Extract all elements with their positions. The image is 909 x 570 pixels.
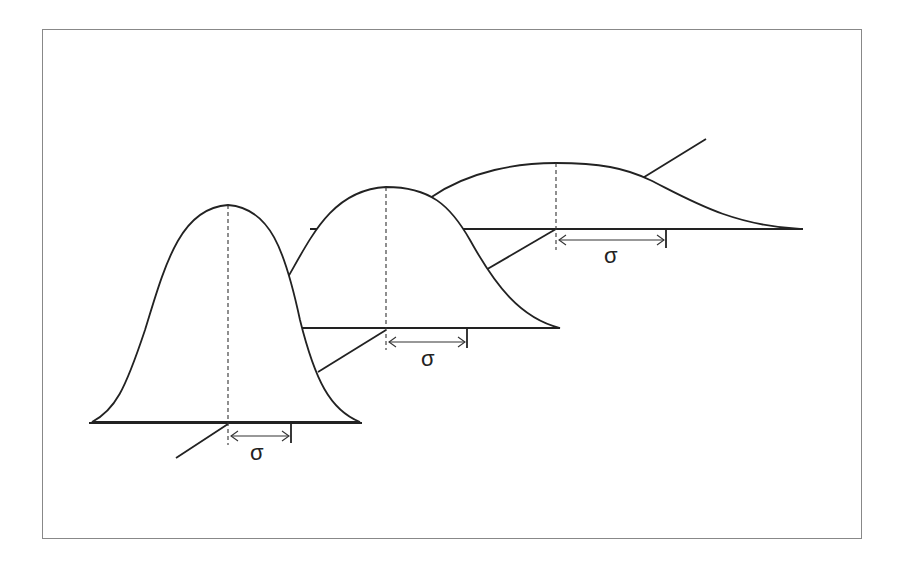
sigma-label: σ [250,440,264,465]
diagonal-axis-segment [641,139,706,179]
diagonal-axis-segment [484,229,556,271]
diagonal-axis-segment [176,424,228,458]
normal-distributions-diagram: σ σ σ [0,0,909,570]
diagonal-axis-segment [318,330,386,372]
sigma-label: σ [604,243,618,268]
sigma-label: σ [421,346,435,371]
